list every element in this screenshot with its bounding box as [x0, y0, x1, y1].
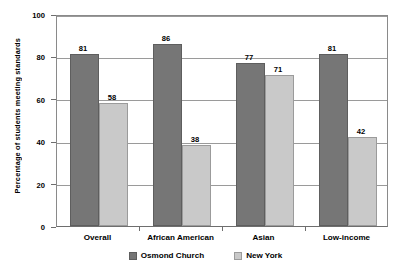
bar — [153, 44, 182, 226]
bar-value-label: 81 — [328, 44, 336, 53]
x-tick-mark — [222, 227, 223, 231]
y-tick-label: 60 — [19, 95, 45, 104]
bar — [70, 54, 99, 226]
y-tick-label: 40 — [19, 138, 45, 147]
bar-value-label: 42 — [357, 127, 365, 136]
y-tick-label: 0 — [19, 223, 45, 232]
legend: Osmond Church New York — [0, 251, 411, 260]
x-tick-label: Low-income — [323, 233, 370, 242]
bar — [182, 145, 211, 226]
bar-value-label: 38 — [191, 135, 199, 144]
bar — [348, 137, 377, 226]
legend-label-1: New York — [246, 251, 282, 260]
plot-area — [56, 15, 388, 227]
bar-value-label: 86 — [162, 34, 170, 43]
bar — [99, 103, 128, 226]
legend-item-1[interactable]: New York — [234, 251, 282, 260]
gridline — [57, 16, 387, 17]
x-tick-mark — [139, 227, 140, 231]
bar-value-label: 77 — [245, 53, 253, 62]
x-tick-mark — [305, 227, 306, 231]
legend-swatch-icon-osmond-church — [129, 252, 137, 260]
bar — [265, 75, 294, 226]
bar-value-label: 81 — [79, 44, 87, 53]
y-tick-label: 100 — [19, 11, 45, 20]
x-tick-label: Overall — [84, 233, 111, 242]
y-tick-label: 80 — [19, 53, 45, 62]
bar — [319, 54, 348, 226]
bar-chart: Percentage of students meeting standards… — [0, 0, 411, 276]
legend-item-0[interactable]: Osmond Church — [129, 251, 204, 260]
legend-swatch-icon-new-york — [234, 252, 242, 260]
bar-value-label: 58 — [108, 93, 116, 102]
x-tick-label: Asian — [252, 233, 274, 242]
y-axis-title: Percentage of students meeting standards — [6, 0, 28, 232]
bar — [236, 63, 265, 226]
bar-value-label: 71 — [274, 65, 282, 74]
legend-label-0: Osmond Church — [141, 251, 204, 260]
x-tick-label: African American — [147, 233, 214, 242]
y-tick-label: 20 — [19, 180, 45, 189]
